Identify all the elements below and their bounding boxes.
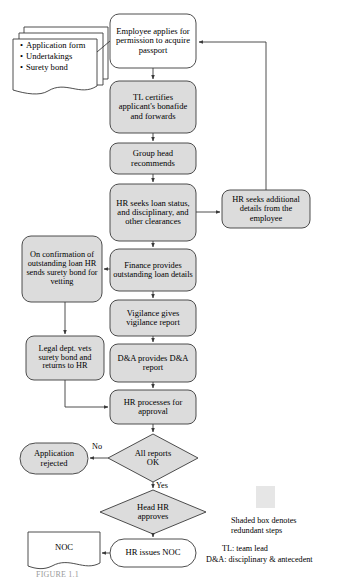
edge-label-yes: Yes: [156, 482, 168, 490]
legend-abbr-tl: TL: team lead: [222, 544, 268, 554]
edge-label-no: No: [92, 443, 102, 451]
node-hr-processes: [110, 390, 196, 424]
node-application-rejected: [20, 443, 88, 474]
legend-shaded-swatch: [256, 486, 275, 508]
node-hr-additional: [222, 190, 310, 228]
doc-item-1: Undertakings: [26, 51, 72, 61]
node-all-reports-ok: [108, 434, 198, 482]
node-noc-document: [28, 532, 100, 569]
flowchart-canvas: •Application form •Undertakings •Surety …: [0, 0, 342, 577]
doc-item-0: Application form: [26, 40, 85, 50]
node-tl-certifies: [110, 81, 196, 133]
figure-caption: FIGURE 1.1: [36, 570, 79, 577]
flowchart-graphics: [0, 0, 342, 577]
legend-abbr-da: D&A: disciplinary & antecedent: [206, 555, 313, 565]
input-documents-list: •Application form •Undertakings •Surety …: [20, 40, 98, 74]
node-finance-loan: [110, 249, 196, 291]
node-hr-issues-noc: [110, 539, 196, 567]
node-legal-dept: [26, 336, 104, 380]
doc-item-2: Surety bond: [26, 62, 68, 72]
node-on-confirmation: [22, 236, 102, 302]
node-da-provides: [110, 344, 196, 382]
node-employee-applies: [110, 14, 196, 68]
legend-shaded-note-line1: Shaded box denotes: [231, 516, 297, 526]
node-vigilance: [110, 300, 196, 336]
node-head-hr-approves: [100, 490, 206, 534]
legend-shaded-note-line2: redundant steps: [231, 526, 282, 536]
node-hr-seeks-loan: [110, 184, 196, 241]
node-group-head: [110, 143, 196, 174]
